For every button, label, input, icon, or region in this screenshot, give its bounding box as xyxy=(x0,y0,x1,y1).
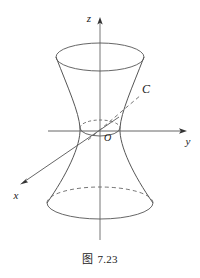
z-axis-label: z xyxy=(86,12,92,24)
figure-page: z y x O C 图7.23 xyxy=(0,0,200,278)
caption-prefix: 图 xyxy=(82,253,93,266)
hyperboloid-figure: z y x O C xyxy=(0,0,200,278)
curve-c-label: C xyxy=(142,82,151,96)
caption-number: 7.23 xyxy=(98,253,118,265)
figure-caption: 图7.23 xyxy=(0,250,200,266)
right-silhouette-curve xyxy=(120,57,153,203)
left-silhouette-curve xyxy=(47,57,80,203)
x-axis-label: x xyxy=(13,189,19,201)
origin-label: O xyxy=(104,132,111,143)
coordinate-axes xyxy=(20,17,187,240)
x-axis-line xyxy=(25,117,120,182)
y-axis-label: y xyxy=(185,135,191,147)
x-axis-arrowhead xyxy=(20,178,28,185)
